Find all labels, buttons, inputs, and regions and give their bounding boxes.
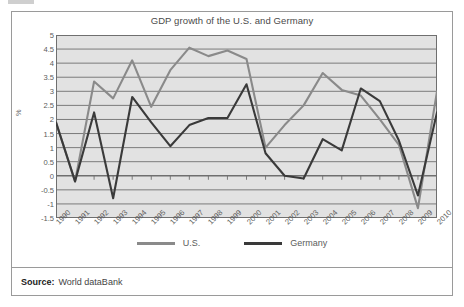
y-tick-label: 4 [50, 59, 54, 68]
plot-lines [56, 35, 437, 218]
y-tick-label: 1.5 [43, 129, 54, 138]
chart-title: GDP growth of the U.S. and Germany [12, 15, 452, 26]
y-tick-label: -1.5 [41, 214, 54, 223]
y-tick-label: -0.5 [41, 185, 54, 194]
y-tick-label: 1 [50, 143, 54, 152]
y-tick-label: 3 [50, 87, 54, 96]
y-tick-label: 5 [50, 31, 54, 40]
x-tick-label: 2010 [435, 208, 453, 226]
legend-label: U.S. [183, 238, 201, 248]
y-tick-label: 2.5 [43, 101, 54, 110]
y-tick-label: -1 [47, 199, 54, 208]
series-line-u-s [56, 48, 437, 208]
y-tick-label: 4.5 [43, 45, 54, 54]
page-top-artifact [8, 0, 34, 4]
y-tick-label: 0.5 [43, 157, 54, 166]
legend-swatch [244, 242, 282, 245]
series-line-germany [56, 84, 437, 198]
source-label: Source: [21, 277, 55, 287]
y-axis-label: % [14, 109, 23, 116]
chart-figure: GDP growth of the U.S. and Germany % 54.… [11, 11, 453, 296]
legend-item: Germany [244, 238, 327, 248]
source-value: World dataBank [59, 277, 123, 287]
figure-page: GDP growth of the U.S. and Germany % 54.… [0, 0, 464, 307]
legend-swatch [137, 242, 175, 245]
y-tick-label: 0 [50, 171, 54, 180]
y-tick-label: 2 [50, 115, 54, 124]
y-tick-label: 3.5 [43, 73, 54, 82]
plot-region [56, 35, 437, 218]
chart-area: GDP growth of the U.S. and Germany % 54.… [12, 12, 452, 269]
chart-legend: U.S.Germany [12, 238, 452, 248]
y-axis-tick-labels: 54.543.532.521.510.50-0.5-1-1.5 [26, 35, 54, 218]
legend-item: U.S. [137, 238, 201, 248]
legend-label: Germany [290, 238, 327, 248]
source-footer: Source: World dataBank [12, 267, 452, 295]
